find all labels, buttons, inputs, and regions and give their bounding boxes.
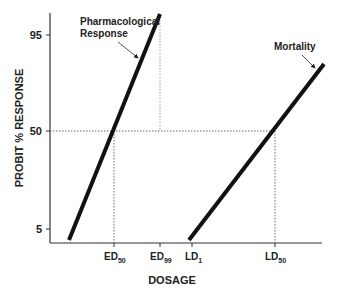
pharmacological-label: Pharmacological xyxy=(80,16,160,27)
response-label: Response xyxy=(80,28,128,39)
x-tick-ld1: LD1 xyxy=(185,251,202,264)
x-tick-ed50: ED50 xyxy=(104,251,126,264)
pharmacological-arrow-icon xyxy=(118,42,138,58)
x-tick-ld50: LD50 xyxy=(265,251,286,264)
mortality-arrow-icon xyxy=(302,55,315,68)
y-tick-95: 95 xyxy=(30,29,42,41)
x-axis-label: DOSAGE xyxy=(148,274,196,286)
mortality-line xyxy=(189,64,324,240)
y-axis-label: PROBIT % RESPONSE xyxy=(13,69,25,188)
probit-chart: 95 50 5 ED50 ED99 LD1 LD50 Pharmacologic… xyxy=(0,0,339,300)
x-tick-ed99: ED99 xyxy=(150,251,172,264)
mortality-label: Mortality xyxy=(274,41,316,52)
y-tick-50: 50 xyxy=(30,125,42,137)
pharmacological-response-line xyxy=(69,14,160,240)
y-tick-5: 5 xyxy=(36,223,42,235)
